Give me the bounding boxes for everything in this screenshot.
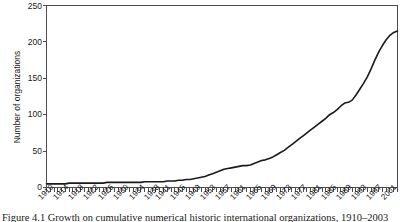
figure-caption: Figure 4.1 Growth on cumulative numerica… <box>2 212 407 222</box>
y-axis-ticks <box>43 6 47 188</box>
axis-frame <box>47 6 398 188</box>
figure-container: Number of organizations 250 200 150 100 … <box>0 0 407 222</box>
data-series-line <box>47 31 398 184</box>
